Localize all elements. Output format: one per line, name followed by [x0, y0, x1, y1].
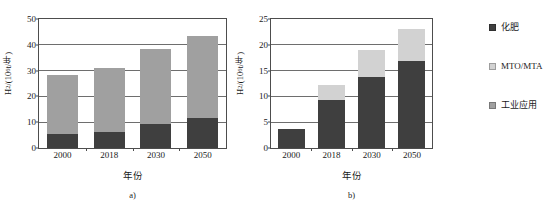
x-axis-label-a: 年份 [38, 172, 227, 182]
y-tick-mark [268, 96, 271, 97]
bar-2030 [140, 49, 171, 148]
y-tick-label: 25 [259, 15, 268, 24]
chart-panel-a: H2/(106t/年) 01020304050 2000201820302050… [0, 0, 232, 213]
y-tick-mark [36, 70, 39, 71]
x-tick-mark [133, 148, 134, 151]
bar-2018 [318, 85, 345, 148]
y-tick-mark [36, 96, 39, 97]
chart-panel-b: H2/(106t/年) 0510152025 2000201820302050 … [222, 0, 437, 213]
x-tick-label: 2018 [100, 151, 118, 160]
y-tick-mark [36, 122, 39, 123]
x-tick-mark [311, 148, 312, 151]
y-tick-label: 10 [27, 118, 36, 127]
y-tick-label: 50 [27, 15, 36, 24]
y-tick-label: 30 [27, 66, 36, 75]
y-tick-label: 10 [259, 92, 268, 101]
x-tick-label: 2030 [363, 151, 381, 160]
bar-segment [47, 134, 78, 148]
plot-area-a: 01020304050 2000201820302050 [38, 18, 227, 149]
bar-segment [94, 132, 125, 148]
bar-segment [398, 61, 425, 148]
bar-segment [278, 129, 305, 148]
bar-segment [47, 75, 78, 134]
x-tick-label: 2000 [282, 151, 300, 160]
bar-segment [187, 118, 218, 148]
bar-segment [318, 100, 345, 148]
y-tick-mark [268, 122, 271, 123]
panel-caption-a: a) [38, 191, 227, 200]
x-tick-label: 2050 [194, 151, 212, 160]
bar-segment [94, 68, 125, 133]
legend-label: 工业应用 [501, 101, 537, 110]
legend-swatch-icon [489, 24, 496, 31]
legend-label: 化肥 [501, 23, 519, 32]
bar-segment [187, 36, 218, 117]
bar-segment [358, 50, 385, 77]
x-axis-label-b: 年份 [270, 172, 433, 182]
y-tick-mark [268, 70, 271, 71]
y-tick-label: 15 [259, 66, 268, 75]
legend: 化肥MTO/MTA工业应用 [489, 22, 557, 139]
y-tick-mark [268, 44, 271, 45]
x-tick-mark [352, 148, 353, 151]
x-tick-label: 2030 [147, 151, 165, 160]
figure-root: H2/(106t/年) 01020304050 2000201820302050… [0, 0, 557, 213]
x-tick-label: 2000 [53, 151, 71, 160]
legend-item-fertilizer[interactable]: 化肥 [489, 22, 557, 32]
bar-segment [140, 49, 171, 124]
plot-area-b: 0510152025 2000201820302050 [270, 18, 433, 149]
y-axis-label-a: H2/(106t/年) [4, 52, 13, 95]
bar-segment [140, 124, 171, 148]
y-tick-mark [36, 19, 39, 20]
x-tick-label: 2050 [403, 151, 421, 160]
y-tick-label: 20 [259, 40, 268, 49]
bar-segment [358, 77, 385, 148]
y-tick-mark [268, 148, 271, 149]
x-tick-mark [392, 148, 393, 151]
bar-segment [398, 29, 425, 61]
legend-label: MTO/MTA [501, 62, 543, 71]
x-tick-mark [179, 148, 180, 151]
bar-2018 [94, 68, 125, 148]
legend-swatch-icon [489, 63, 496, 70]
bar-2050 [398, 29, 425, 148]
legend-item-mto_mta[interactable]: MTO/MTA [489, 61, 557, 71]
bar-2000 [278, 129, 305, 148]
y-axis-label-b: H2/(106t/年) [236, 52, 245, 95]
bar-2050 [187, 36, 218, 148]
x-tick-label: 2018 [322, 151, 340, 160]
legend-item-industrial[interactable]: 工业应用 [489, 100, 557, 110]
panel-caption-b: b) [270, 191, 433, 200]
bar-2000 [47, 75, 78, 148]
y-tick-mark [36, 44, 39, 45]
x-tick-mark [86, 148, 87, 151]
bar-2030 [358, 50, 385, 148]
y-tick-mark [268, 19, 271, 20]
y-tick-mark [36, 148, 39, 149]
y-tick-label: 20 [27, 92, 36, 101]
bar-segment [318, 85, 345, 100]
y-tick-label: 40 [27, 40, 36, 49]
legend-swatch-icon [489, 102, 496, 109]
